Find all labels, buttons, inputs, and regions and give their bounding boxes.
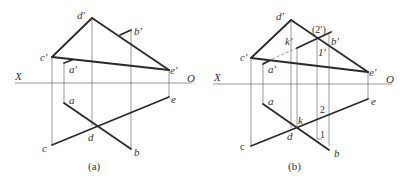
projection-diagrams: d′ b′ c′ a′ e′ X O a e d c b (a) d′ xyxy=(0,0,407,186)
svg-text:c′: c′ xyxy=(240,51,248,63)
svg-text:X: X xyxy=(14,70,23,82)
edge-a-b xyxy=(64,103,131,149)
svg-text:d′: d′ xyxy=(276,10,285,22)
svg-text:1: 1 xyxy=(320,129,325,140)
svg-text:O: O xyxy=(386,73,394,85)
svg-text:a′: a′ xyxy=(69,63,78,75)
svg-text:c: c xyxy=(42,142,47,154)
figure-b: d′ (2′) k′ b′ 1′ c′ a′ e′ X O a e 2 k 1 … xyxy=(213,10,394,173)
svg-text:a: a xyxy=(268,95,274,107)
svg-text:b′: b′ xyxy=(134,25,143,37)
svg-text:e: e xyxy=(171,93,176,105)
svg-text:d′: d′ xyxy=(77,9,86,21)
svg-text:d: d xyxy=(88,131,94,143)
svg-text:b: b xyxy=(134,146,140,158)
svg-text:X: X xyxy=(213,71,222,83)
svg-text:O: O xyxy=(187,72,195,84)
svg-text:a′: a′ xyxy=(268,63,277,75)
svg-text:(2′): (2′) xyxy=(312,24,326,36)
svg-text:k′: k′ xyxy=(285,35,293,47)
svg-text:e: e xyxy=(371,95,376,107)
svg-text:c: c xyxy=(240,141,245,152)
svg-text:e′: e′ xyxy=(369,66,377,78)
svg-text:1′: 1′ xyxy=(318,46,327,58)
svg-text:e′: e′ xyxy=(170,64,178,76)
edge-c-d-prime xyxy=(52,18,92,57)
svg-text:b′: b′ xyxy=(331,35,340,47)
svg-text:b: b xyxy=(334,147,340,159)
figure-a: d′ b′ c′ a′ e′ X O a e d c b (a) xyxy=(14,9,195,173)
caption-a: (a) xyxy=(88,160,101,173)
caption-b: (b) xyxy=(288,160,301,173)
svg-text:a: a xyxy=(69,94,75,106)
svg-text:d: d xyxy=(287,130,293,142)
svg-text:2: 2 xyxy=(320,104,325,115)
svg-text:c′: c′ xyxy=(40,51,48,63)
